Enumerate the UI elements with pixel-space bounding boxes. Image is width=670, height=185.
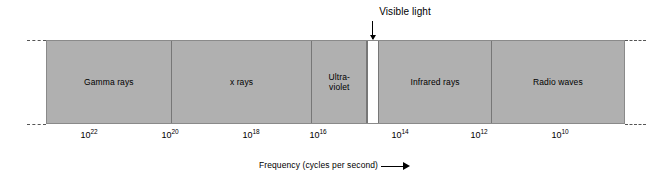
tick-exponent-2: 18 (252, 128, 259, 135)
tick-label-3: 1016 (309, 130, 326, 141)
tick-exponent-1: 20 (171, 128, 178, 135)
band-gamma-rays[interactable]: Gamma rays (47, 41, 172, 123)
band-label-infrared-rays: Infrared rays (411, 77, 460, 87)
tick-base-0: 10 (80, 130, 90, 140)
tick-exponent-0: 22 (90, 128, 97, 135)
tick-label-4: 1014 (391, 130, 408, 141)
axis-caption-text: Frequency (cycles per second) (259, 160, 378, 170)
electromagnetic-spectrum-figure: Visible light Gamma rays x rays Ultra- v… (0, 0, 670, 185)
band-dash-left-top (27, 40, 46, 41)
tick-base-4: 10 (391, 130, 401, 140)
band-dash-right-top (625, 40, 646, 41)
tick-label-6: 1010 (551, 130, 568, 141)
tick-exponent-5: 12 (480, 128, 487, 135)
band-label-ultraviolet: Ultra- violet (329, 72, 350, 92)
tick-exponent-4: 14 (401, 128, 408, 135)
tick-label-1: 1020 (161, 130, 178, 141)
axis-direction-arrow-icon (381, 162, 411, 170)
band-dash-right-bottom (625, 124, 646, 125)
tick-base-6: 10 (551, 130, 561, 140)
band-x-rays[interactable]: x rays (172, 41, 313, 123)
band-visible-light[interactable] (367, 41, 379, 123)
tick-base-1: 10 (161, 130, 171, 140)
tick-base-3: 10 (309, 130, 319, 140)
visible-light-callout: Visible light (340, 6, 470, 18)
visible-light-arrow-icon (372, 21, 373, 39)
band-label-radio-waves: Radio waves (533, 77, 583, 87)
tick-base-2: 10 (242, 130, 252, 140)
band-radio-waves[interactable]: Radio waves (492, 41, 624, 123)
tick-base-5: 10 (470, 130, 480, 140)
tick-label-2: 1018 (242, 130, 259, 141)
band-ultraviolet[interactable]: Ultra- violet (312, 41, 367, 123)
band-infrared-rays[interactable]: Infrared rays (379, 41, 492, 123)
axis-caption: Frequency (cycles per second) (0, 160, 670, 171)
tick-exponent-6: 10 (561, 128, 568, 135)
band-label-gamma-rays: Gamma rays (84, 77, 134, 87)
visible-light-label: Visible light (340, 6, 470, 18)
band-label-x-rays: x rays (230, 77, 253, 87)
tick-label-5: 1012 (470, 130, 487, 141)
tick-exponent-3: 16 (319, 128, 326, 135)
band-dash-left-bottom (27, 124, 46, 125)
tick-label-0: 1022 (80, 130, 97, 141)
spectrum-band: Gamma rays x rays Ultra- violet Infrared… (46, 40, 625, 124)
